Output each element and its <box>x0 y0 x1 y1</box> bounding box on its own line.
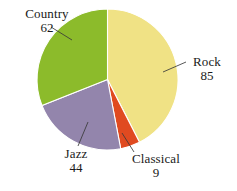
slice-label-jazz: Jazz 44 <box>50 147 102 175</box>
slice-label-classical-value: 9 <box>114 166 198 180</box>
slice-label-rock-value: 85 <box>180 69 234 83</box>
slice-label-country-name: Country <box>11 7 83 21</box>
slice-label-rock: Rock 85 <box>180 55 234 83</box>
slice-label-classical: Classical 9 <box>114 152 198 180</box>
slice-label-classical-name: Classical <box>114 152 198 166</box>
slice-label-country-value: 62 <box>11 21 83 35</box>
slice-label-jazz-value: 44 <box>50 161 102 175</box>
slice-label-country: Country 62 <box>11 7 83 35</box>
pie-chart: Country 62 Rock 85 Jazz 44 Classical 9 <box>0 0 237 191</box>
slice-label-rock-name: Rock <box>180 55 234 69</box>
slice-label-jazz-name: Jazz <box>50 147 102 161</box>
